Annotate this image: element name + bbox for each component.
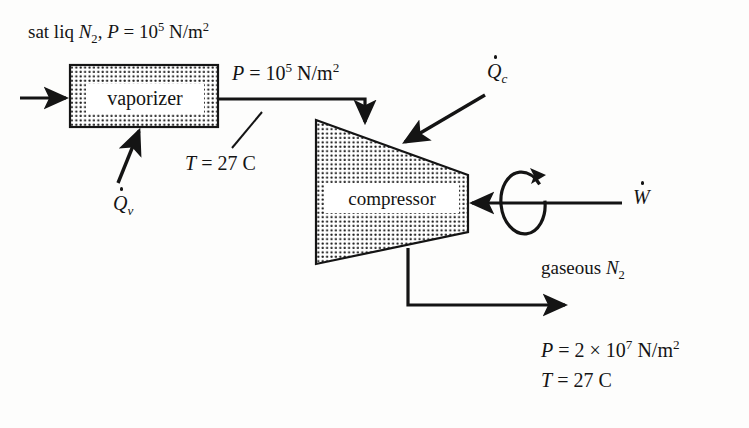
feed-pressure-units: N/m [164, 21, 203, 42]
intermediate-pressure-label: P = 105 N/m2 [232, 60, 339, 85]
product-stream-label: gaseous N2 [541, 257, 625, 282]
feed-equals: = [119, 21, 139, 42]
vaporizer-heat-label: Qv [113, 192, 133, 218]
feed-pressure-base: 10 [139, 21, 158, 42]
vaporizer-heat-subscript: v [127, 203, 133, 218]
outlet-temperature-variable: T [541, 369, 552, 391]
shaft-work-symbol: W [633, 186, 650, 209]
product-species-subscript: 2 [619, 268, 625, 282]
intermediate-temperature-equals: = [196, 152, 217, 174]
vaporizer-label: vaporizer [86, 84, 204, 113]
intermediate-pressure-base: 10 [266, 62, 286, 84]
feed-separator: , [98, 21, 108, 42]
compressor-heat-label: Qc [487, 60, 507, 86]
shaft-work-input [472, 168, 622, 236]
outlet-pressure-variable: P [541, 339, 553, 361]
vaporizer-heat-symbol: Q [113, 192, 127, 215]
vaporizer-heat-arrow [118, 131, 139, 183]
shaft-work-label: W [633, 186, 650, 209]
compressor-heat-arrow [405, 95, 485, 142]
intermediate-temperature-value: 27 C [217, 152, 255, 174]
process-flow-diagram: vaporizer compressor sat liq N2, P = 105… [0, 0, 749, 428]
outlet-pressure-units: N/m [632, 339, 673, 361]
feed-pressure-units-exponent: 2 [203, 20, 209, 34]
outlet-pressure-units-exponent: 2 [673, 337, 680, 352]
intermediate-pressure-variable: P [232, 62, 244, 84]
outlet-temperature-equals: = [552, 369, 573, 391]
outlet-pressure-label: P = 2 × 107 N/m2 [541, 337, 680, 362]
product-prefix: gaseous [541, 257, 606, 278]
outlet-pressure-coefficient: 2 [575, 339, 590, 361]
product-species: N [606, 257, 619, 278]
feed-pressure-variable: P [107, 21, 119, 42]
outlet-pressure-equals: = [553, 339, 574, 361]
compressor-heat-symbol: Q [487, 60, 501, 83]
outlet-temperature-label: T = 27 C [541, 369, 612, 392]
outlet-pressure-times: × [590, 339, 601, 361]
intermediate-temperature-variable: T [185, 152, 196, 174]
feed-prefix: sat liq [28, 21, 79, 42]
outlet-pressure-base: 10 [601, 339, 626, 361]
intermediate-temperature-label: T = 27 C [185, 152, 256, 175]
intermediate-pressure-equals: = [244, 62, 265, 84]
vaporizer-to-compressor-pipe [218, 99, 365, 122]
outlet-temperature-value: 27 C [573, 369, 611, 391]
compressor-heat-subscript: c [501, 71, 507, 86]
intermediate-temperature-leader [232, 112, 262, 148]
intermediate-pressure-units-exponent: 2 [333, 60, 340, 75]
intermediate-pressure-units: N/m [292, 62, 333, 84]
feed-species: N [79, 21, 92, 42]
feed-stream-label: sat liq N2, P = 105 N/m2 [28, 20, 209, 47]
compressor-label: compressor [325, 184, 459, 213]
